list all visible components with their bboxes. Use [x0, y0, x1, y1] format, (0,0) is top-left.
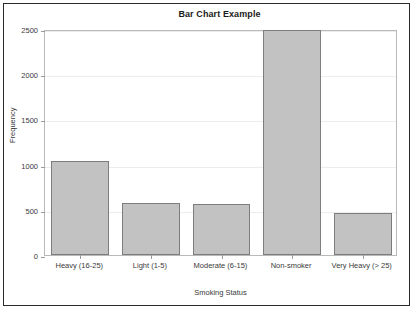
chart-title: Bar Chart Example: [42, 9, 397, 19]
x-axis-category-label: Non-smoker: [256, 261, 327, 270]
x-axis-category-label: Heavy (16-25): [44, 261, 115, 270]
y-axis-tick-label: 500: [25, 208, 38, 216]
y-axis-title: Frequency: [9, 108, 17, 143]
bar: [51, 161, 109, 255]
chart-screenshot: Bar Chart Example Frequency 050010001500…: [0, 0, 413, 309]
y-axis-tick-label: 0: [34, 253, 38, 261]
x-axis-category-label: Very Heavy (> 25): [326, 261, 397, 270]
x-axis-tick: [292, 255, 293, 259]
plot-area: 05001000150020002500: [44, 30, 397, 256]
y-axis-tick-label: 1500: [21, 118, 38, 126]
y-axis-tick-label: 2500: [21, 27, 38, 35]
x-axis-tick: [222, 255, 223, 259]
bar: [263, 30, 321, 255]
x-axis-category-label: Light (1-5): [115, 261, 186, 270]
bars-layer: [45, 31, 396, 255]
x-axis-category-label: Moderate (6-15): [185, 261, 256, 270]
x-axis-tick: [363, 255, 364, 259]
x-axis-tick: [151, 255, 152, 259]
bar: [122, 203, 180, 255]
bar: [193, 204, 251, 255]
y-axis-tick-label: 1000: [21, 163, 38, 171]
x-axis-title: Smoking Status: [44, 288, 397, 297]
x-axis-tick: [80, 255, 81, 259]
y-axis-tick: [41, 257, 45, 258]
y-axis-tick-label: 2000: [21, 72, 38, 80]
bar: [334, 213, 392, 255]
